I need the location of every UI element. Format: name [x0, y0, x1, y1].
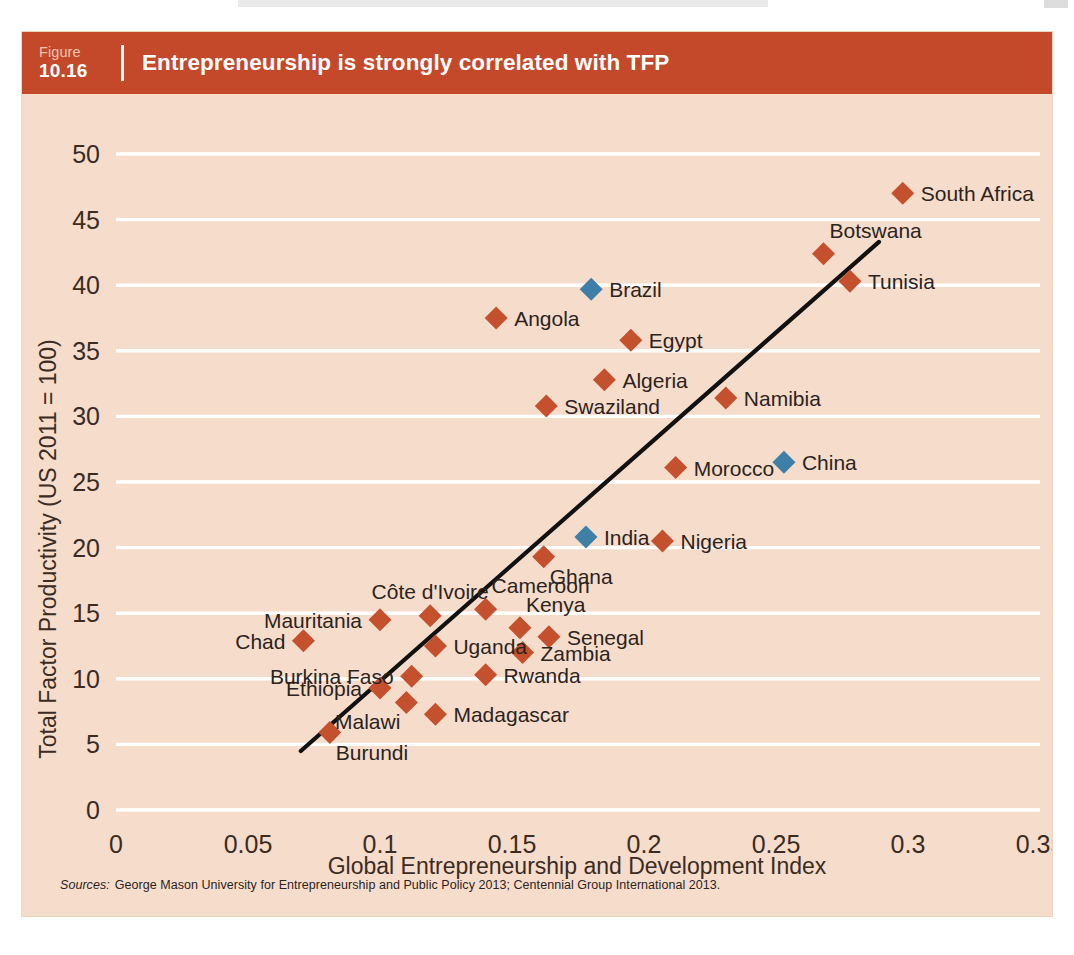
data-point-marker[interactable] [485, 307, 508, 330]
data-point-label: Chad [235, 630, 285, 653]
y-tick-label: 0 [86, 796, 100, 824]
y-tick-label: 40 [72, 271, 100, 299]
data-point-marker[interactable] [772, 451, 795, 474]
data-point-label: Algeria [622, 369, 688, 392]
data-point-label: Nigeria [680, 530, 747, 553]
data-point-label: Swaziland [564, 395, 660, 418]
x-tick-label: 0.35 [1016, 830, 1052, 858]
header-divider [121, 45, 124, 81]
data-point-marker[interactable] [812, 242, 835, 265]
scatter-chart: 05101520253035404550 00.050.10.150.20.25… [22, 94, 1052, 916]
data-point-label: South Africa [921, 182, 1035, 205]
x-tick-label: 0.3 [891, 830, 926, 858]
scan-artifact-corner [1044, 0, 1068, 8]
figure-card: Figure 10.16 Entrepreneurship is strongl… [22, 32, 1052, 916]
figure-number-block: Figure 10.16 [22, 45, 121, 80]
data-point-label: Ethiopia [286, 677, 362, 700]
data-point-marker[interactable] [619, 329, 642, 352]
data-point-marker[interactable] [400, 665, 423, 688]
y-tick-label: 20 [72, 534, 100, 562]
sources-note: Sources:George Mason University for Entr… [60, 878, 1020, 892]
data-point-label: Zambia [541, 642, 611, 665]
gridlines [116, 154, 1040, 810]
x-tick-label: 0.05 [224, 830, 273, 858]
y-tick-label: 30 [72, 402, 100, 430]
figure-word: Figure [39, 45, 121, 60]
chart-plot-area: 05101520253035404550 00.050.10.150.20.25… [22, 94, 1052, 916]
figure-number: 10.16 [39, 61, 121, 81]
data-point-marker[interactable] [535, 394, 558, 417]
data-point-marker[interactable] [419, 604, 442, 627]
x-axis-title: Global Entrepreneurship and Development … [328, 853, 827, 879]
data-point-marker[interactable] [424, 703, 447, 726]
y-tick-label: 25 [72, 468, 100, 496]
data-point-label: Uganda [453, 635, 527, 658]
data-point-label: Madagascar [453, 703, 569, 726]
data-point-marker[interactable] [891, 182, 914, 205]
data-point-label: Côte d'Ivoire [372, 580, 489, 603]
data-point-label: Brazil [609, 278, 662, 301]
data-point-label: India [604, 526, 650, 549]
data-point-label: Burundi [336, 741, 408, 764]
data-point-label: Malawi [335, 710, 400, 733]
data-point-marker[interactable] [593, 368, 616, 391]
y-tick-label: 10 [72, 665, 100, 693]
sources-label: Sources: [60, 878, 110, 892]
data-point-marker[interactable] [474, 663, 497, 686]
data-point-labels: South AfricaBotswanaTunisiaAngolaEgyptAl… [235, 182, 1034, 763]
data-point-marker[interactable] [664, 456, 687, 479]
figure-header: Figure 10.16 Entrepreneurship is strongl… [22, 32, 1052, 94]
scan-artifact-top [238, 0, 768, 7]
y-tick-label: 45 [72, 206, 100, 234]
data-point-label: Botswana [830, 219, 923, 242]
figure-title: Entrepreneurship is strongly correlated … [142, 50, 669, 76]
data-point-label: Tunisia [868, 270, 935, 293]
sources-text: George Mason University for Entrepreneur… [115, 878, 721, 892]
data-point-label: Namibia [744, 387, 821, 410]
y-tick-label: 50 [72, 140, 100, 168]
data-point-label: Morocco [694, 457, 775, 480]
y-tick-label: 15 [72, 599, 100, 627]
data-point-label: Rwanda [504, 664, 581, 687]
y-axis-title: Total Factor Productivity (US 2011 = 100… [35, 339, 61, 759]
data-point-marker[interactable] [574, 526, 597, 549]
x-tick-label: 0 [109, 830, 123, 858]
data-point-marker[interactable] [714, 387, 737, 410]
data-point-marker[interactable] [292, 629, 315, 652]
y-axis-ticks: 05101520253035404550 [72, 140, 100, 824]
data-point-label: Egypt [649, 329, 703, 352]
data-point-label: Angola [514, 307, 580, 330]
data-point-label: Mauritania [264, 609, 362, 632]
y-tick-label: 35 [72, 337, 100, 365]
y-tick-label: 5 [86, 730, 100, 758]
data-point-label: Kenya [526, 593, 586, 616]
data-point-marker[interactable] [580, 278, 603, 301]
data-point-label: China [802, 451, 857, 474]
